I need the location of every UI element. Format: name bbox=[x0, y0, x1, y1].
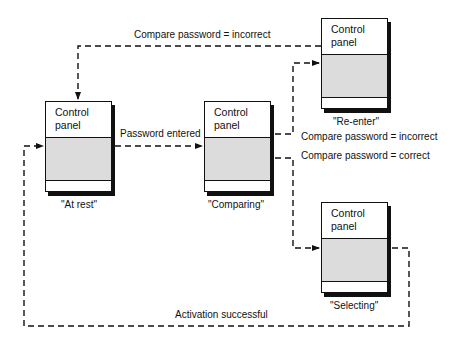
panel-screen bbox=[205, 138, 270, 181]
label-password-entered: Password entered bbox=[120, 128, 201, 139]
state-caption-at-rest: "At rest" bbox=[61, 199, 97, 210]
panel-header: Control panel bbox=[322, 19, 387, 55]
state-panel-at-rest: Control panel bbox=[45, 101, 112, 192]
panel-frame: Control panel bbox=[321, 18, 388, 109]
panel-screen bbox=[46, 138, 111, 181]
arrow-comparing-to-selecting bbox=[275, 158, 319, 248]
panel-bottom-strip bbox=[322, 282, 387, 292]
panel-frame: Control panel bbox=[321, 202, 388, 293]
arrow-reenter-to-atrest bbox=[78, 46, 321, 99]
label-compare-correct: Compare password = correct bbox=[301, 150, 430, 161]
panel-header: Control panel bbox=[205, 102, 270, 138]
state-panel-selecting: Control panel bbox=[321, 202, 388, 293]
panel-title: Control panel bbox=[331, 207, 383, 233]
panel-title: Control panel bbox=[214, 106, 266, 132]
panel-title: Control panel bbox=[331, 23, 383, 49]
panel-header: Control panel bbox=[322, 203, 387, 239]
label-reenter-to-atrest: Compare password = incorrect bbox=[134, 29, 270, 40]
panel-title: Control panel bbox=[55, 106, 107, 132]
state-caption-comparing: "Comparing" bbox=[208, 199, 264, 210]
state-panel-comparing: Control panel bbox=[204, 101, 271, 192]
state-caption-selecting: "Selecting" bbox=[330, 300, 378, 311]
panel-frame: Control panel bbox=[204, 101, 271, 192]
arrow-comparing-to-reenter bbox=[275, 63, 319, 134]
panel-bottom-strip bbox=[205, 181, 270, 191]
state-caption-re-enter: "Re-enter" bbox=[333, 116, 379, 127]
state-panel-re-enter: Control panel bbox=[321, 18, 388, 109]
label-compare-incorrect: Compare password = incorrect bbox=[301, 131, 437, 142]
panel-header: Control panel bbox=[46, 102, 111, 138]
panel-bottom-strip bbox=[46, 181, 111, 191]
panel-screen bbox=[322, 239, 387, 282]
panel-frame: Control panel bbox=[45, 101, 112, 192]
panel-screen bbox=[322, 55, 387, 98]
label-activation-successful: Activation successful bbox=[175, 309, 268, 320]
panel-bottom-strip bbox=[322, 98, 387, 108]
